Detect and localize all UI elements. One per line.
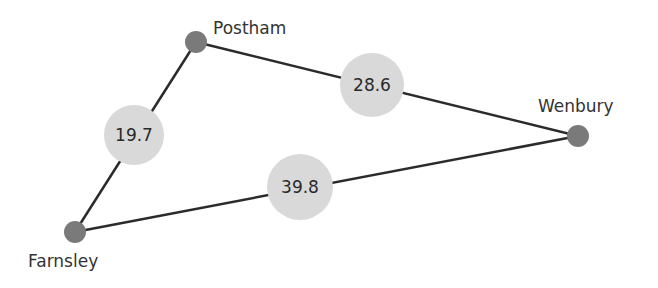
edge-weight-postham-wenbury: 28.6: [353, 75, 391, 95]
node-label-wenbury: Wenbury: [538, 96, 614, 116]
node-wenbury: [567, 125, 589, 147]
node-label-postham: Postham: [213, 18, 286, 38]
graph-canvas: [0, 0, 658, 288]
node-label-farnsley: Farnsley: [28, 251, 98, 271]
edge-weight-farnsley-postham: 19.7: [115, 125, 153, 145]
node-postham: [185, 31, 207, 53]
node-farnsley: [64, 221, 86, 243]
edge-weight-farnsley-wenbury: 39.8: [281, 177, 319, 197]
